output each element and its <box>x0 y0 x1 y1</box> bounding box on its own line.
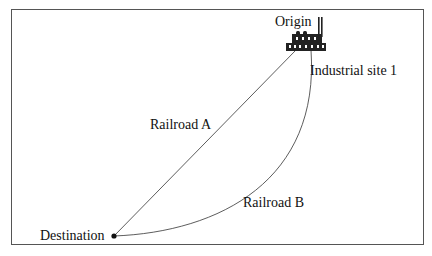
origin-label: Origin <box>275 15 312 29</box>
diagram-frame <box>12 10 424 245</box>
railroad-a-label: Railroad A <box>150 118 211 132</box>
destination-dot-icon <box>111 233 116 238</box>
destination-label: Destination <box>40 229 105 243</box>
railroad-b-label: Railroad B <box>243 196 304 210</box>
route-diagram <box>0 0 432 256</box>
industrial-site-label: Industrial site 1 <box>310 64 397 78</box>
